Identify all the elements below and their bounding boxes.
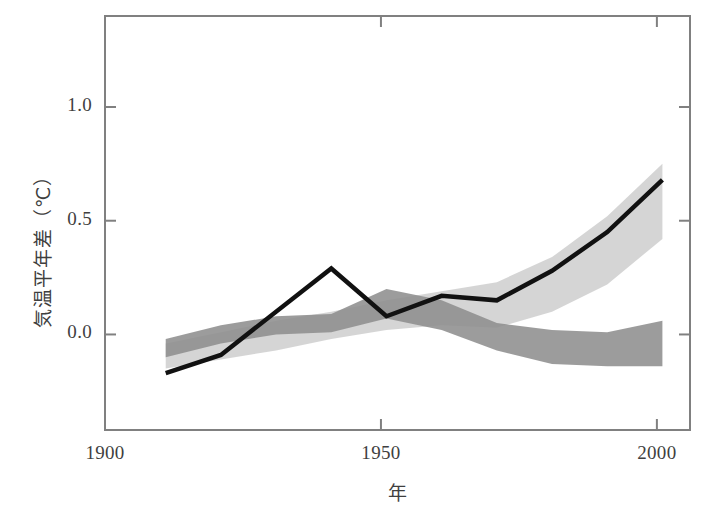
chart-plot-area: [0, 0, 711, 514]
x-tick-label-1: 1950: [326, 442, 436, 464]
x-tick-label-2: 2000: [602, 442, 711, 464]
y-tick-label-2: 1.0: [30, 94, 92, 116]
chart-figure: 0.0 0.5 1.0 1900 1950 2000 気温平年差（℃） 年: [0, 0, 711, 514]
y-axis-title: 気温平年差（℃）: [28, 166, 55, 328]
x-tick-label-0: 1900: [50, 442, 160, 464]
x-axis-title: 年: [338, 478, 458, 505]
